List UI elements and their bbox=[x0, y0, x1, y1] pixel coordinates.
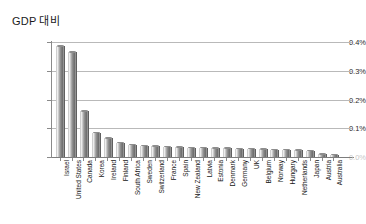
x-tick-label: United States bbox=[75, 160, 82, 199]
x-tick-mark bbox=[238, 158, 239, 161]
x-tick-mark bbox=[83, 158, 84, 161]
x-tick-label: Germany bbox=[241, 160, 248, 187]
bar bbox=[259, 149, 268, 157]
bar-series bbox=[52, 42, 352, 157]
x-tick-mark bbox=[203, 158, 204, 161]
bar-cap bbox=[295, 149, 302, 151]
x-tick-label: Latvia bbox=[206, 160, 213, 177]
x-tick-mark bbox=[262, 158, 263, 161]
bar bbox=[80, 111, 89, 157]
x-tick-label: Switzerland bbox=[158, 160, 165, 194]
x-tick-mark bbox=[191, 158, 192, 161]
bar bbox=[92, 133, 101, 157]
bar-cap bbox=[307, 150, 314, 152]
x-tick-mark bbox=[167, 158, 168, 161]
bar bbox=[140, 146, 149, 158]
x-tick-mark bbox=[131, 158, 132, 161]
bar-cap bbox=[57, 45, 64, 47]
bar bbox=[294, 150, 303, 157]
bar-cap bbox=[283, 149, 290, 151]
chart-container: GDP 대비 0.4%0.3%0.2%0.1%0.0% IsraelUnited… bbox=[0, 0, 366, 224]
bar bbox=[247, 149, 256, 157]
x-tick-label: Canada bbox=[86, 160, 93, 183]
x-tick-label: New Zealand bbox=[194, 160, 201, 198]
x-tick-mark bbox=[250, 158, 251, 161]
x-tick-mark bbox=[286, 158, 287, 161]
bar bbox=[199, 148, 208, 157]
x-tick-label: France bbox=[170, 160, 177, 180]
x-tick-mark bbox=[60, 158, 61, 161]
x-axis-labels: IsraelUnited StatesCanadaKoreaIrelandFin… bbox=[52, 160, 352, 224]
bar-cap bbox=[260, 148, 267, 150]
x-tick-mark bbox=[298, 158, 299, 161]
bar bbox=[163, 147, 172, 157]
bar bbox=[235, 149, 244, 157]
x-tick-label: Belgium bbox=[265, 160, 272, 183]
bar bbox=[211, 148, 220, 157]
x-tick-mark bbox=[226, 158, 227, 161]
bar-cap bbox=[117, 142, 124, 144]
bar bbox=[282, 150, 291, 157]
bar-cap bbox=[224, 147, 231, 149]
x-tick-label: Finland bbox=[122, 160, 129, 181]
x-tick-label: Austria bbox=[325, 160, 332, 180]
x-tick-label: UK bbox=[253, 160, 260, 169]
bar-cap bbox=[212, 147, 219, 149]
bar bbox=[56, 46, 65, 157]
chart-title: GDP 대비 bbox=[12, 12, 60, 28]
bar-cap bbox=[164, 146, 171, 148]
x-tick-mark bbox=[155, 158, 156, 161]
bar-cap bbox=[248, 148, 255, 150]
x-tick-label: Japan bbox=[313, 160, 320, 178]
x-tick-label: Netherlands bbox=[301, 160, 308, 195]
x-tick-label: Sweden bbox=[146, 160, 153, 184]
bar-cap bbox=[81, 110, 88, 112]
x-tick-label: Ireland bbox=[110, 160, 117, 180]
x-tick-mark bbox=[274, 158, 275, 161]
x-tick-mark bbox=[95, 158, 96, 161]
x-tick-label: Australia bbox=[336, 160, 343, 185]
bar bbox=[128, 145, 137, 157]
bar bbox=[104, 138, 113, 157]
bar bbox=[116, 143, 125, 157]
x-tick-mark bbox=[72, 158, 73, 161]
bar-cap bbox=[319, 153, 326, 155]
bar-cap bbox=[271, 149, 278, 151]
x-tick-label: Israel bbox=[63, 160, 70, 176]
bar-cap bbox=[93, 132, 100, 134]
x-tick-mark bbox=[143, 158, 144, 161]
x-tick-mark bbox=[310, 158, 311, 161]
x-tick-label: Hungary bbox=[289, 160, 296, 185]
x-tick-mark bbox=[322, 158, 323, 161]
bar-cap bbox=[331, 154, 338, 156]
bar bbox=[270, 150, 279, 157]
x-tick-label: Estonia bbox=[217, 160, 224, 182]
x-tick-mark bbox=[119, 158, 120, 161]
bar bbox=[68, 52, 77, 157]
x-tick-label: Spain bbox=[182, 160, 189, 177]
x-tick-mark bbox=[107, 158, 108, 161]
x-tick-mark bbox=[179, 158, 180, 161]
x-tick-label: Denmark bbox=[229, 160, 236, 186]
x-tick-label: Korea bbox=[98, 160, 105, 177]
bar bbox=[187, 148, 196, 157]
bar-cap bbox=[129, 144, 136, 146]
bar-cap bbox=[152, 145, 159, 147]
bar-cap bbox=[200, 147, 207, 149]
bar-cap bbox=[105, 137, 112, 139]
bar-cap bbox=[141, 145, 148, 147]
bar bbox=[330, 155, 339, 157]
bar-cap bbox=[176, 146, 183, 148]
x-tick-mark bbox=[333, 158, 334, 161]
x-tick-label: Norway bbox=[277, 160, 284, 182]
x-tick-label: South Africa bbox=[134, 160, 141, 195]
plot-area bbox=[52, 42, 352, 157]
bar-cap bbox=[188, 147, 195, 149]
bar bbox=[306, 151, 315, 157]
bar-cap bbox=[69, 51, 76, 53]
bar bbox=[151, 146, 160, 157]
x-tick-mark bbox=[214, 158, 215, 161]
bar-cap bbox=[236, 148, 243, 150]
bar bbox=[318, 154, 327, 157]
bar bbox=[175, 147, 184, 157]
